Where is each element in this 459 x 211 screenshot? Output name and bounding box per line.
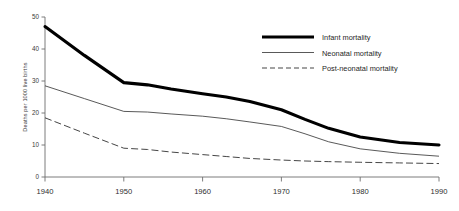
- legend-item-infant-mortality: Infant mortality: [262, 33, 371, 42]
- legend-label: Neonatal mortality: [322, 49, 382, 58]
- chart-legend: Infant mortality Neonatal mortality Post…: [262, 33, 398, 73]
- x-tick-label: 1970: [273, 187, 290, 196]
- chart-canvas: 0 10 20 30 40 50 Deaths per 1000 live bi…: [0, 0, 459, 211]
- y-tick-label: 10: [32, 141, 40, 148]
- x-tick-label: 1980: [352, 187, 369, 196]
- x-tick-label: 1950: [115, 187, 132, 196]
- series-line-neonatal-mortality: [45, 86, 439, 156]
- y-tick-label: 30: [32, 77, 40, 84]
- legend-label: Infant mortality: [322, 33, 371, 42]
- legend-label: Post-neonatal mortality: [322, 64, 398, 73]
- y-tick-label: 40: [32, 45, 40, 52]
- x-axis-ticks: [45, 177, 439, 182]
- y-axis-ticks: [42, 17, 46, 177]
- x-tick-label: 1960: [194, 187, 211, 196]
- x-tick-label: 1940: [37, 187, 54, 196]
- legend-item-post-neonatal-mortality: Post-neonatal mortality: [262, 64, 398, 73]
- y-tick-label: 50: [32, 13, 40, 20]
- x-tick-label: 1990: [431, 187, 448, 196]
- y-axis-tick-labels: 0 10 20 30 40 50: [32, 13, 40, 180]
- mortality-line-chart: 0 10 20 30 40 50 Deaths per 1000 live bi…: [0, 0, 459, 211]
- y-tick-label: 0: [35, 173, 39, 180]
- series-line-infant-mortality: [45, 27, 439, 145]
- x-axis-tick-labels: 1940 1950 1960 1970 1980 1990: [37, 187, 448, 196]
- legend-item-neonatal-mortality: Neonatal mortality: [262, 49, 382, 58]
- y-axis-title: Deaths per 1000 live births: [22, 62, 28, 131]
- y-tick-label: 20: [32, 109, 40, 116]
